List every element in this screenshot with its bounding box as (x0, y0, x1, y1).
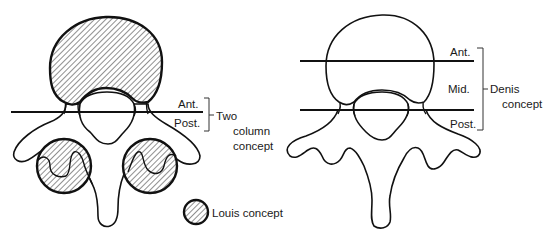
left-concept-label-1: Two (216, 110, 237, 122)
right-concept-bracket (477, 48, 488, 130)
legend-label: Louis concept (212, 207, 284, 219)
legend-louis-concept: Louis concept (184, 200, 284, 224)
right-concept-label-1: Denis (490, 83, 520, 95)
spine-column-concepts-diagram: Ant. Post. Two column concept Louis conc… (0, 0, 558, 234)
right-label-post: Post. (450, 118, 476, 130)
legend-hatched-swatch (184, 200, 208, 224)
left-facet-joint-right (123, 139, 177, 193)
left-label-post: Post. (174, 117, 200, 129)
right-vertebral-body (326, 15, 434, 105)
left-label-ant: Ant. (178, 98, 198, 110)
left-facet-joint-left (37, 139, 92, 193)
right-label-ant: Ant. (450, 46, 470, 58)
left-concept-bracket (204, 98, 214, 131)
left-concept-label-2: column (233, 125, 270, 137)
right-label-mid: Mid. (448, 83, 470, 95)
left-concept-label-3: concept (233, 140, 274, 152)
right-concept-label-2: concept (502, 98, 543, 110)
